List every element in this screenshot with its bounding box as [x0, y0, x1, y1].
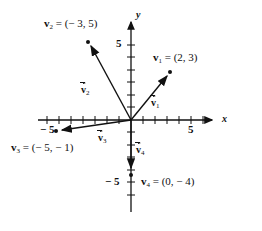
point-label-v2: v2 = (− 3, 5): [44, 18, 97, 29]
vector-arrow-v3: [54, 120, 131, 133]
point-label-v3-subscript: 3: [17, 147, 21, 155]
point-label-v4: v4 = (0, − 4): [141, 176, 194, 187]
vector-name-label-v4: v4: [136, 145, 145, 155]
vector-name-label-v2: v2: [81, 85, 90, 95]
point-label-v4-symbol: v: [141, 175, 147, 187]
vector-arrow-v2: [86, 40, 131, 120]
x-tick-label-neg5: − 5: [40, 124, 55, 135]
point-label-v4-coords: = (0, − 4): [153, 175, 195, 187]
point-label-v3-coords: = (− 5, − 1): [23, 141, 74, 153]
overarrow-icon: [80, 82, 85, 83]
point-label-v1: v1 = (2, 3): [153, 52, 198, 63]
point-label-v4-subscript: 4: [147, 181, 151, 189]
vector-plot-figure: x y − 5 5 5 − 5 v2 = (− 3, 5) v1 = (2, 3…: [0, 0, 262, 231]
y-tick-label-neg5: − 5: [105, 176, 120, 187]
point-label-v2-symbol: v: [44, 17, 50, 29]
point-label-v1-coords: = (2, 3): [165, 51, 198, 63]
x-axis-label: x: [222, 114, 227, 124]
vector-name-v2-subscript: 2: [86, 89, 90, 97]
overarrow-icon: [97, 130, 102, 131]
vector-name-v3-subscript: 3: [103, 137, 107, 145]
vector-name-label-v3: v3: [98, 133, 107, 143]
y-tick-label-pos5: 5: [116, 38, 122, 49]
point-label-v3: v3 = (− 5, − 1): [11, 142, 73, 153]
vector-endpoint-v1: [168, 70, 172, 74]
vector-name-label-v1: v1: [151, 98, 160, 108]
point-label-v1-symbol: v: [153, 51, 159, 63]
vector-name-v1-subscript: 1: [156, 102, 160, 110]
overarrow-icon: [135, 142, 140, 143]
point-label-v2-coords: = (− 3, 5): [56, 17, 98, 29]
point-label-v3-symbol: v: [11, 141, 17, 153]
overarrow-icon: [150, 95, 155, 96]
x-axis: [38, 116, 212, 124]
vector-endpoint-v4: [129, 173, 133, 177]
x-tick-label-pos5: 5: [188, 124, 194, 135]
vector-endpoint-v2: [86, 40, 90, 44]
point-label-v2-subscript: 2: [50, 23, 54, 31]
point-label-v1-subscript: 1: [159, 57, 163, 65]
y-axis-label: y: [136, 10, 140, 20]
vector-name-v4-subscript: 4: [141, 149, 145, 157]
